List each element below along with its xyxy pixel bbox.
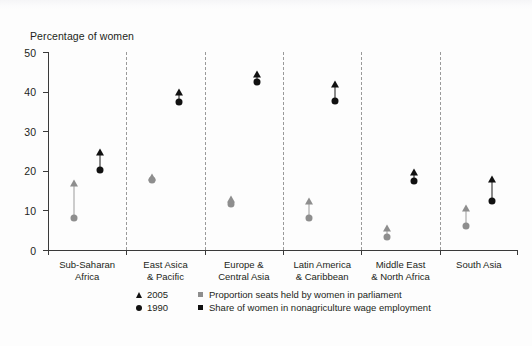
y-axis-title: Percentage of women xyxy=(30,30,134,42)
x-axis-category-label-line: & North Africa xyxy=(371,271,430,283)
data-point-2005 xyxy=(488,175,496,182)
x-axis-category-label: East Asica& Pacific xyxy=(143,259,187,282)
connector-stem xyxy=(73,183,74,219)
legend-entry-2005: 2005 xyxy=(133,288,195,301)
data-point-1990 xyxy=(332,98,339,105)
y-axis-tick: 50 xyxy=(43,52,48,53)
data-point-2005 xyxy=(175,88,183,95)
x-axis-tick xyxy=(205,250,206,255)
y-axis-tick-label: 20 xyxy=(24,165,36,177)
x-axis-category-label-line: Europe & xyxy=(218,259,269,271)
x-axis-category-label-line: South Asia xyxy=(456,259,501,271)
y-axis-tick-label: 0 xyxy=(30,245,36,257)
legend-label: Share of women in nonagriculture wage em… xyxy=(209,301,431,314)
x-axis-category-label: Europe &Central Asia xyxy=(218,259,269,282)
x-axis-category-label-line: & Caribbean xyxy=(293,271,351,283)
x-axis-category-label: South Asia xyxy=(456,259,501,271)
category-separator xyxy=(361,52,362,250)
category-separator xyxy=(440,52,441,250)
y-axis-tick-label: 50 xyxy=(24,47,36,59)
x-axis-tick xyxy=(361,250,362,255)
y-axis-tick: 40 xyxy=(43,92,48,93)
square-grey-icon xyxy=(195,292,206,297)
data-point-2005 xyxy=(410,169,418,176)
y-axis-tick: 20 xyxy=(43,171,48,172)
y-axis-tick-label: 40 xyxy=(24,86,36,98)
legend-entry-wage-employment: Share of women in nonagriculture wage em… xyxy=(195,301,431,314)
x-axis-tick xyxy=(517,250,518,255)
y-axis-tick: 30 xyxy=(43,131,48,132)
data-point-2005 xyxy=(331,80,339,87)
y-axis-tick-label: 30 xyxy=(24,126,36,138)
x-axis-tick xyxy=(283,250,284,255)
x-axis-category-label: Sub-SaharanAfrica xyxy=(59,259,115,282)
legend-label: Proportion seats held by women in parlia… xyxy=(209,288,402,301)
data-point-2005 xyxy=(253,70,261,77)
legend-row: 1990 Share of women in nonagriculture wa… xyxy=(133,301,431,314)
data-point-2005 xyxy=(227,195,235,202)
x-axis-category-label-line: Latin America xyxy=(293,259,351,271)
circle-icon xyxy=(133,305,144,311)
data-point-1990 xyxy=(489,197,496,204)
data-point-1990 xyxy=(305,215,312,222)
data-point-2005 xyxy=(383,225,391,232)
x-axis-category-label-line: East Asica xyxy=(143,259,187,271)
chart-figure: Percentage of women 01020304050 Sub-Saha… xyxy=(0,0,532,346)
legend-label: 2005 xyxy=(147,288,168,301)
x-axis-category-label: Latin America& Caribbean xyxy=(293,259,351,282)
x-axis-category-label: Middle East& North Africa xyxy=(371,259,430,282)
y-axis-tick-label: 10 xyxy=(24,205,36,217)
x-axis-category-label-line: Middle East xyxy=(371,259,430,271)
data-point-1990 xyxy=(97,167,104,174)
data-point-1990 xyxy=(462,223,469,230)
plot-area: 01020304050 xyxy=(48,52,518,250)
category-separator xyxy=(126,52,127,250)
x-axis-category-label-line: Central Asia xyxy=(218,271,269,283)
data-point-1990 xyxy=(70,215,77,222)
legend-entry-parliament: Proportion seats held by women in parlia… xyxy=(195,288,402,301)
y-axis-tick: 10 xyxy=(43,210,48,211)
triangle-up-icon xyxy=(133,292,144,298)
square-black-icon xyxy=(195,305,206,310)
data-point-1990 xyxy=(384,234,391,241)
legend-entry-1990: 1990 xyxy=(133,301,195,314)
data-point-2005 xyxy=(462,205,470,212)
data-point-2005 xyxy=(96,148,104,155)
x-axis-category-label-line: & Pacific xyxy=(143,271,187,283)
x-axis-tick xyxy=(126,250,127,255)
x-axis-category-label-line: Sub-Saharan xyxy=(59,259,115,271)
legend-label: 1990 xyxy=(147,301,168,314)
data-point-2005 xyxy=(305,197,313,204)
data-point-1990 xyxy=(410,177,417,184)
data-point-2005 xyxy=(70,179,78,186)
data-point-1990 xyxy=(175,98,182,105)
x-axis-category-label-line: Africa xyxy=(59,271,115,283)
category-separator xyxy=(283,52,284,250)
chart-legend: 2005 Proportion seats held by women in p… xyxy=(133,288,431,314)
y-axis-line xyxy=(48,52,49,250)
x-axis-tick xyxy=(440,250,441,255)
x-axis-tick xyxy=(48,250,49,255)
legend-row: 2005 Proportion seats held by women in p… xyxy=(133,288,431,301)
data-point-1990 xyxy=(254,78,261,85)
data-point-2005 xyxy=(148,174,156,181)
category-separator xyxy=(205,52,206,250)
scan-artifact xyxy=(0,0,532,10)
